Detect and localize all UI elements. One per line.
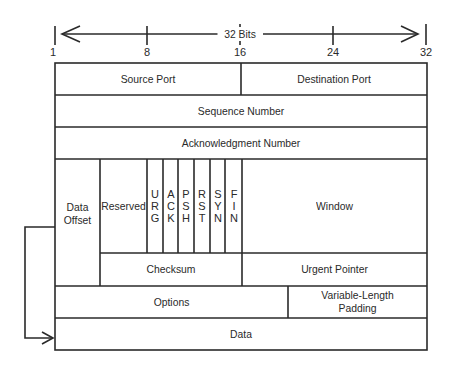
tick-label-8: 8 [137, 46, 157, 58]
flag-fin: FIN [227, 188, 241, 224]
flag-psh: PSH [179, 188, 193, 224]
field-urgent-pointer: Urgent Pointer [251, 253, 418, 286]
tick-label-16: 16 [230, 46, 250, 58]
field-data: Data [74, 318, 409, 350]
data-offset-line2: Offset [64, 214, 91, 227]
tcp-header-diagram: 32 Bits 1 8 16 24 32 Source Port Destina… [0, 0, 450, 369]
flag-syn: SYN [211, 188, 225, 224]
tick-label-24: 24 [323, 46, 343, 58]
field-sequence-number: Sequence Number [74, 95, 409, 127]
field-destination-port: Destination Port [250, 63, 417, 95]
field-window: Window [251, 159, 418, 253]
ruler-label: 32 Bits [218, 27, 263, 41]
field-data-offset: Data Offset [57, 200, 98, 228]
field-acknowledgment-number: Acknowledgment Number [74, 127, 409, 159]
padding-line2: Padding [339, 302, 377, 315]
flag-urg: URG [148, 188, 162, 224]
field-checksum: Checksum [107, 253, 235, 286]
field-options: Options [67, 286, 277, 318]
flag-rst: RST [195, 188, 209, 224]
flag-ack: ACK [164, 188, 178, 224]
field-variable-length-padding: Variable-Length Padding [295, 286, 420, 318]
tick-label-32: 32 [416, 46, 436, 58]
data-offset-line1: Data [67, 201, 89, 214]
field-reserved: Reserved [102, 159, 144, 253]
data-offset-arrow [25, 227, 55, 338]
padding-line1: Variable-Length [321, 289, 393, 302]
field-source-port: Source Port [64, 63, 231, 95]
tick-label-1: 1 [43, 46, 63, 58]
